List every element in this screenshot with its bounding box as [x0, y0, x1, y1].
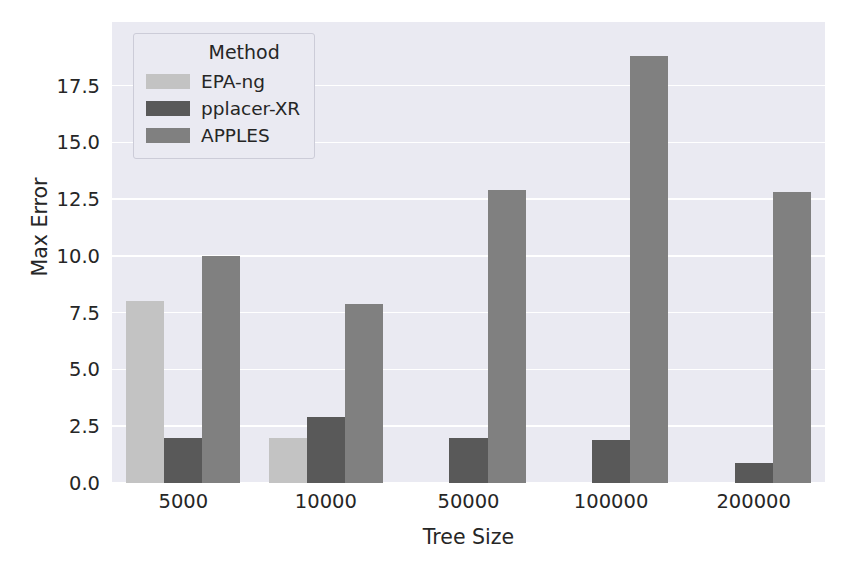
- legend-item-pplacer-xr[interactable]: pplacer-XR: [146, 95, 300, 122]
- x-axis-ticks: 50001000050000100000200000: [112, 490, 825, 520]
- y-tick-label: 2.5: [0, 415, 100, 438]
- legend-item-epa-ng[interactable]: EPA-ng: [146, 68, 300, 95]
- x-axis-label: Tree Size: [112, 525, 825, 549]
- y-tick-label: 17.5: [0, 74, 100, 97]
- legend-swatch-icon: [146, 101, 190, 116]
- legend: Method EPA-ngpplacer-XRAPPLES: [133, 33, 315, 159]
- x-tick-label: 10000: [295, 490, 357, 513]
- bar-chart-figure: 0.02.55.07.510.012.515.017.5 50001000050…: [0, 0, 843, 574]
- x-tick-label: 200000: [716, 490, 790, 513]
- x-tick-label: 5000: [158, 490, 208, 513]
- y-tick-label: 0.0: [0, 472, 100, 495]
- legend-swatch-icon: [146, 74, 190, 89]
- x-tick-label: 100000: [574, 490, 648, 513]
- legend-title: Method: [146, 41, 300, 63]
- legend-item-label: APPLES: [201, 125, 270, 146]
- x-tick-label: 50000: [437, 490, 499, 513]
- y-axis-label: Max Error: [28, 127, 52, 327]
- legend-swatch-icon: [146, 128, 190, 143]
- legend-item-label: EPA-ng: [201, 71, 265, 92]
- legend-item-apples[interactable]: APPLES: [146, 122, 300, 149]
- y-axis-ticks: 0.02.55.07.510.012.515.017.5: [0, 22, 843, 483]
- legend-item-label: pplacer-XR: [201, 98, 300, 119]
- y-tick-label: 5.0: [0, 358, 100, 381]
- legend-entries: EPA-ngpplacer-XRAPPLES: [146, 68, 300, 149]
